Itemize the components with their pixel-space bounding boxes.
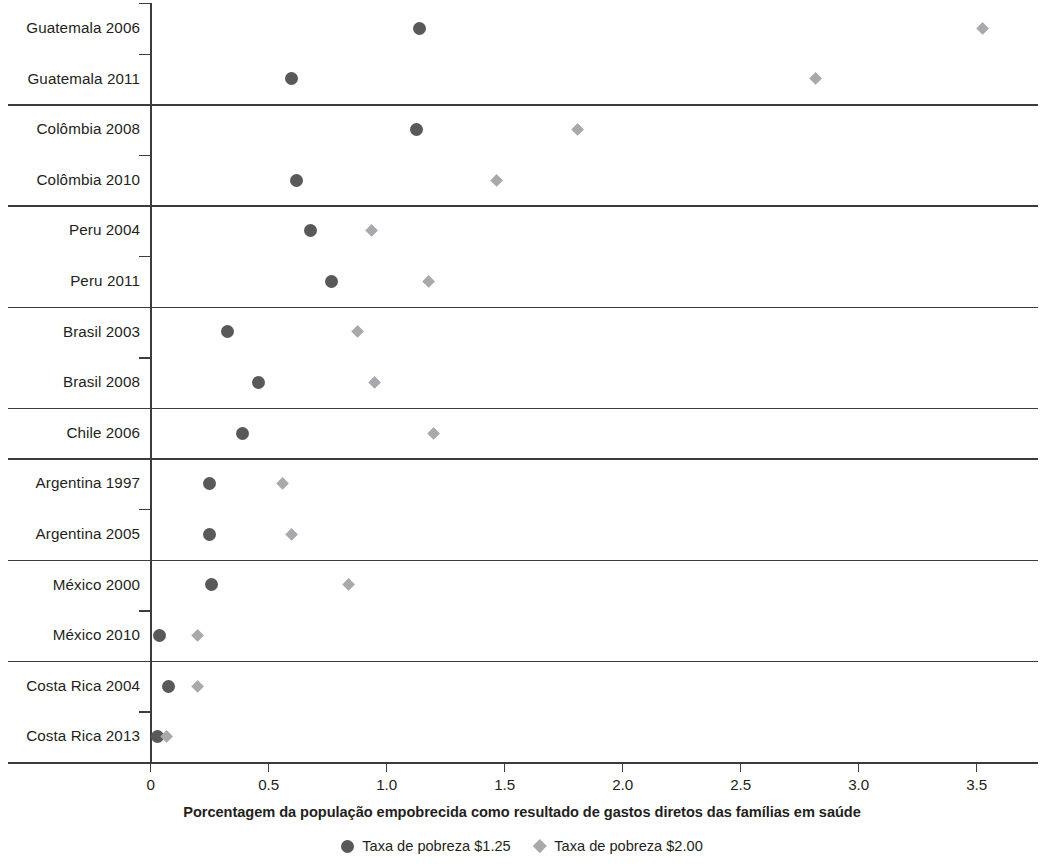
diamond-data-point xyxy=(427,427,440,440)
x-axis-tick xyxy=(740,764,741,772)
x-axis-tick-label: 1.0 xyxy=(376,776,397,793)
chart-row: Brasil 2003 xyxy=(0,307,1044,358)
x-axis-tick xyxy=(622,764,623,772)
row-label-guatemala-2011: Guatemala 2011 xyxy=(0,54,140,105)
x-axis-tick-label: 2.0 xyxy=(612,776,633,793)
diamond-data-point xyxy=(191,680,204,693)
chart-row: México 2010 xyxy=(0,610,1044,661)
row-tick xyxy=(139,711,150,712)
circle-data-point xyxy=(252,376,265,389)
x-axis-tick xyxy=(976,764,977,772)
x-axis-title: Porcentagem da população empobrecida com… xyxy=(0,804,1044,820)
diamond-data-point xyxy=(368,376,381,389)
row-tick xyxy=(139,155,150,156)
x-axis-tick xyxy=(504,764,505,772)
group-separator-argentina xyxy=(8,560,1038,562)
diamond-data-point xyxy=(422,275,435,288)
x-axis-tick-label: 0.5 xyxy=(258,776,279,793)
row-tick xyxy=(139,54,150,55)
chart-row: Costa Rica 2004 xyxy=(0,661,1044,712)
circle-data-point xyxy=(203,477,216,490)
chart-row: Costa Rica 2013 xyxy=(0,711,1044,762)
x-axis-tick-label: 0 xyxy=(146,776,154,793)
x-axis-tick-label: 1.5 xyxy=(494,776,515,793)
row-label-peru-2011: Peru 2011 xyxy=(0,256,140,307)
chart-row: Argentina 2005 xyxy=(0,509,1044,560)
row-label-colômbia-2010: Colômbia 2010 xyxy=(0,155,140,206)
diamond-data-point xyxy=(191,629,204,642)
x-axis-tick-label: 2.5 xyxy=(730,776,751,793)
row-label-méxico-2000: México 2000 xyxy=(0,560,140,611)
circle-data-point xyxy=(413,22,426,35)
x-axis-line xyxy=(8,762,1038,764)
diamond-data-point xyxy=(285,528,298,541)
group-separator-guatemala xyxy=(8,104,1038,106)
x-axis-tick-label: 3.5 xyxy=(966,776,987,793)
legend-label-poverty-200: Taxa de pobreza $2.00 xyxy=(554,838,702,854)
row-label-argentina-1997: Argentina 1997 xyxy=(0,458,140,509)
row-tick xyxy=(139,610,150,611)
chart-row: Brasil 2008 xyxy=(0,357,1044,408)
diamond-data-point xyxy=(365,224,378,237)
group-separator-chile xyxy=(8,458,1038,460)
diamond-data-point xyxy=(342,578,355,591)
chart-row: Colômbia 2010 xyxy=(0,155,1044,206)
row-label-guatemala-2006: Guatemala 2006 xyxy=(0,3,140,54)
legend-item-poverty-200: Taxa de pobreza $2.00 xyxy=(533,838,703,854)
row-tick xyxy=(139,357,150,358)
diamond-data-point xyxy=(977,22,990,35)
chart-row: México 2000 xyxy=(0,560,1044,611)
circle-data-point xyxy=(236,427,249,440)
circle-data-point xyxy=(304,224,317,237)
row-label-peru-2004: Peru 2004 xyxy=(0,205,140,256)
chart-row: Colômbia 2008 xyxy=(0,104,1044,155)
group-separator-brasil xyxy=(8,408,1038,410)
chart-row: Guatemala 2006 xyxy=(0,3,1044,54)
diamond-data-point xyxy=(276,477,289,490)
x-axis-tick xyxy=(386,764,387,772)
circle-data-point xyxy=(325,275,338,288)
circle-data-point xyxy=(203,528,216,541)
poverty-rate-dot-chart: Guatemala 2006Guatemala 2011Colômbia 200… xyxy=(0,0,1044,867)
circle-data-point xyxy=(162,680,175,693)
circle-data-point xyxy=(410,123,423,136)
chart-row: Guatemala 2011 xyxy=(0,54,1044,105)
circle-data-point xyxy=(221,325,234,338)
x-axis-tick xyxy=(150,764,151,772)
diamond-data-point xyxy=(490,174,503,187)
chart-legend: Taxa de pobreza $1.25 Taxa de pobreza $2… xyxy=(0,838,1044,854)
row-tick xyxy=(139,509,150,510)
row-label-costa-rica-2004: Costa Rica 2004 xyxy=(0,661,140,712)
circle-data-point xyxy=(290,174,303,187)
chart-row: Chile 2006 xyxy=(0,408,1044,459)
row-label-chile-2006: Chile 2006 xyxy=(0,408,140,459)
group-separator-colômbia xyxy=(8,205,1038,207)
legend-label-poverty-125: Taxa de pobreza $1.25 xyxy=(362,838,510,854)
chart-row: Peru 2011 xyxy=(0,256,1044,307)
diamond-data-point xyxy=(809,72,822,85)
row-label-argentina-2005: Argentina 2005 xyxy=(0,509,140,560)
legend-item-poverty-125: Taxa de pobreza $1.25 xyxy=(341,838,510,854)
row-tick xyxy=(139,256,150,257)
x-axis-tick xyxy=(268,764,269,772)
diamond-data-point xyxy=(571,123,584,136)
row-label-brasil-2003: Brasil 2003 xyxy=(0,307,140,358)
diamond-data-point xyxy=(351,325,364,338)
circle-data-point xyxy=(153,629,166,642)
x-axis-tick-label: 3.0 xyxy=(848,776,869,793)
row-label-méxico-2010: México 2010 xyxy=(0,610,140,661)
row-label-brasil-2008: Brasil 2008 xyxy=(0,357,140,408)
x-axis-tick xyxy=(858,764,859,772)
chart-row: Argentina 1997 xyxy=(0,458,1044,509)
row-label-colômbia-2008: Colômbia 2008 xyxy=(0,104,140,155)
plot-area: Guatemala 2006Guatemala 2011Colômbia 200… xyxy=(0,0,1044,763)
circle-data-point xyxy=(205,578,218,591)
row-label-costa-rica-2013: Costa Rica 2013 xyxy=(0,711,140,762)
chart-row: Peru 2004 xyxy=(0,205,1044,256)
group-separator-méxico xyxy=(8,661,1038,663)
circle-data-point xyxy=(285,72,298,85)
circle-marker-icon xyxy=(341,840,354,853)
group-separator-peru xyxy=(8,307,1038,309)
diamond-marker-icon xyxy=(533,839,547,853)
